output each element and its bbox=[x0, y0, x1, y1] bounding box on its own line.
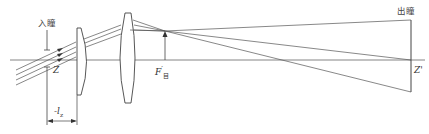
lens-1 bbox=[77, 28, 87, 95]
focal-arrow bbox=[163, 31, 168, 60]
focal-point-sub: 目 bbox=[163, 72, 169, 79]
incoming-rays bbox=[16, 42, 76, 85]
lens-2 bbox=[120, 13, 135, 103]
intermediate-rays bbox=[84, 25, 121, 47]
distance-label: -lz bbox=[54, 107, 63, 118]
distance-sub: z bbox=[60, 111, 63, 118]
entrance-point-label: Z bbox=[53, 66, 59, 75]
entrance-pupil bbox=[44, 30, 50, 125]
optical-system-diagram bbox=[0, 0, 429, 134]
converging-rays bbox=[130, 20, 411, 92]
exit-point-label: Z' bbox=[414, 66, 423, 75]
focal-point-label: F′目 bbox=[155, 66, 169, 79]
exit-pupil-label: 出瞳 bbox=[397, 7, 415, 16]
entrance-pupil-label: 入瞳 bbox=[38, 19, 56, 28]
